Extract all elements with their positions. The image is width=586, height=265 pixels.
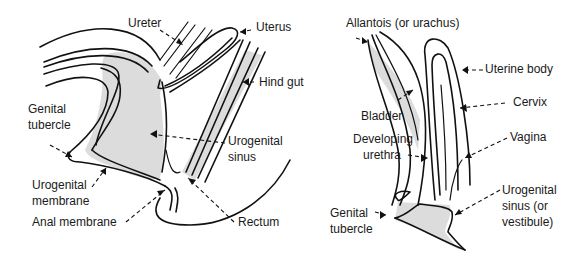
label-uterine-body: Uterine body <box>485 62 553 76</box>
label-urogenital-sinus-l2: sinus <box>228 150 256 164</box>
label-allantois: Allantois (or urachus) <box>346 16 459 30</box>
label-urogenital-sinus-r2: sinus (or <box>502 199 548 213</box>
label-developing-urethra-l2: urethra <box>363 148 401 162</box>
label-ureter: Ureter <box>128 16 161 30</box>
label-bladder: Bladder <box>361 109 402 123</box>
label-genital-tubercle-l1: Genital <box>28 102 66 116</box>
label-genital-tubercle-r2: tubercle <box>330 222 373 236</box>
label-urogenital-sinus-r3: vestibule) <box>502 215 553 229</box>
label-hind-gut: Hind gut <box>259 75 304 89</box>
label-urogenital-sinus-r1: Urogenital <box>502 183 557 197</box>
label-urogenital-sinus-l1: Urogenital <box>228 134 283 148</box>
label-anal-membrane: Anal membrane <box>32 215 117 229</box>
label-uterus: Uterus <box>256 20 291 34</box>
label-genital-tubercle-l2: tubercle <box>28 118 71 132</box>
label-developing-urethra-l1: Developing <box>353 132 413 146</box>
label-rectum: Rectum <box>238 215 279 229</box>
label-vagina: Vagina <box>510 130 546 144</box>
label-cervix: Cervix <box>513 95 547 109</box>
label-urogenital-membrane-l2: membrane <box>32 194 89 208</box>
label-urogenital-membrane-l1: Urogenital <box>32 178 87 192</box>
embryology-figure: Ureter Uterus Hind gut Genital tubercle … <box>0 0 586 265</box>
label-genital-tubercle-r1: Genital <box>330 206 368 220</box>
